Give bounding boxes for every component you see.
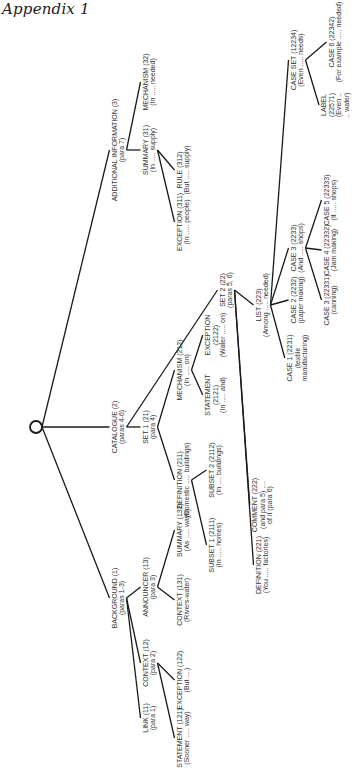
svg-text:EXCEPTION(2122)(Water ..... on: EXCEPTION(2122)(Water ..... on) (204, 313, 227, 357)
tree-labels: BACKGROUND (1)(paras 1-3)LINK (11)(para … (111, 2, 351, 768)
node-22571: LABEL(22571)(Even .... water) (320, 92, 351, 117)
svg-text:DEFINITION (211)(Domestic ....: DEFINITION (211)(Domestic ..... building… (176, 442, 192, 517)
svg-text:CASE 6 (22342)(For example ...: CASE 6 (22342)(For example ..... needed) (328, 2, 344, 83)
node-22333: CASE 5 (22333)(It ..... shops) (323, 175, 339, 226)
tree-edge (158, 530, 175, 587)
node-label-line: (In .... buildings) (215, 445, 223, 495)
node-label-line: STATEMENT (204, 374, 211, 416)
node-2121: STATEMENT(2121)(In ..... and) (204, 374, 227, 416)
svg-text:LIST (223)(Among ..... needed): LIST (223)(Among ..... needed) (255, 273, 271, 337)
node-2234: CASE SET (12234)(Even ..... needs) (290, 30, 306, 91)
node-3: ADDITIONAL INFORMATION (3)(para 7) (111, 99, 127, 202)
svg-text:RULE (312)(But ..... supply): RULE (312)(But ..... supply) (176, 145, 192, 194)
node-label-line: (You ..... factories) (262, 537, 270, 594)
svg-text:ANNOUNCER (13)(para 3): ANNOUNCER (13)(para 3) (142, 557, 158, 617)
node-13: ANNOUNCER (13)(para 3) (142, 557, 158, 617)
node-32: MECHANISM (32)(In ..... needed) (142, 53, 158, 110)
node-22331: CASE 3 (22331)(canning) (323, 275, 339, 326)
node-212: MECHANISM (212)(In ..... on) (176, 339, 192, 400)
node-2122: EXCEPTION(2122)(Water ..... on) (204, 313, 227, 357)
node-21: SET 1 (21)(para 4) (142, 410, 158, 444)
svg-text:EXCEPTION (122)(But ....): EXCEPTION (122)(But ....) (176, 651, 192, 710)
tree-edge (42, 150, 110, 427)
node-2112: SUBSET 2 (2112)(In .... buildings) (208, 442, 224, 497)
node-2231: CASE 1 (2231)(textilemanufacturing) (286, 334, 309, 381)
node-label-line: (para 2) (149, 651, 157, 676)
svg-text:COMMENT (222)(and para 5) ....: COMMENT (222)(and para 5) ....of it (par… (251, 478, 274, 532)
svg-text:SUBSET 1 (2111)(In ..... homes: SUBSET 1 (2111)(In ..... homes) (208, 518, 224, 573)
node-label-line: (In ..... needed) (149, 58, 157, 105)
node-1: BACKGROUND (1)(paras 1-3) (111, 568, 127, 629)
tree-diagram: BACKGROUND (1)(paras 1-3)LINK (11)(para … (0, 0, 360, 778)
node-31: SUMMARY (31)(In ..... supply) (142, 125, 158, 175)
node-label-line: (paper making) (297, 276, 305, 323)
svg-text:MECHANISM (32)(In ..... needed: MECHANISM (32)(In ..... needed) (142, 53, 158, 110)
svg-text:CASE 3 (22331)(canning): CASE 3 (22331)(canning) (323, 275, 339, 326)
node-label-line: (In ..... supply) (149, 128, 157, 172)
tree-edge (158, 663, 175, 738)
tree-edge (192, 370, 203, 395)
node-label-line: LABEL (320, 94, 327, 116)
node-122: EXCEPTION (122)(But ....) (176, 651, 192, 710)
tree-edge (306, 248, 322, 250)
node-121: STATEMENT (121)(Sooner ..... way) (176, 708, 192, 768)
node-label-line: (para 7) (118, 138, 126, 163)
node-11: LINK (11)(para 1) (142, 703, 158, 732)
svg-text:SUBSET 2 (2112)(In .... buildi: SUBSET 2 (2112)(In .... buildings) (208, 442, 224, 497)
node-label-line: (Rivers-water) (183, 578, 191, 622)
node-2: CATALOGUE (2)(paras 4-6) (111, 401, 127, 454)
svg-text:CONTEXT (12)(para 2): CONTEXT (12)(para 2) (142, 639, 158, 687)
node-221: DEFINITION (221)(You ..... factories) (255, 536, 271, 594)
node-22: SET 2 (22)(paras 5, 6) (219, 272, 235, 308)
svg-text:CASE SET (12234)(Even ..... ne: CASE SET (12234)(Even ..... needs) (290, 30, 306, 91)
node-label-line: (But ....) (183, 668, 191, 693)
tree-edge (192, 470, 207, 480)
tree-edge (158, 587, 175, 600)
node-22342: CASE 6 (22342)(For example ..... needed) (328, 2, 344, 83)
node-2232: CASE 2 (2232)(paper making) (290, 276, 306, 323)
node-label-line: (canning) (330, 285, 338, 314)
node-label-line: .. water) (343, 92, 351, 117)
svg-text:EXCEPTION (311)(In ..... peopl: EXCEPTION (311)(In ..... people) (176, 193, 192, 251)
node-label-line: (paras 5, 6) (226, 272, 234, 308)
tree-edge (306, 248, 322, 300)
svg-text:SET 2 (22)(paras 5, 6): SET 2 (22)(paras 5, 6) (219, 272, 235, 308)
svg-text:ADDITIONAL INFORMATION (3)(par: ADDITIONAL INFORMATION (3)(para 7) (111, 99, 127, 202)
tree-edge (127, 82, 141, 150)
node-label-line: (In ..... and) (219, 377, 227, 413)
node-label-line: manufacturing) (301, 335, 309, 382)
svg-text:CASE 3 (2233)(And ..... shops): CASE 3 (2233)(And ..... shops) (290, 223, 306, 272)
node-label-line: (para 1) (149, 706, 157, 731)
tree-edge (127, 598, 141, 718)
svg-text:CASE 4 (22332)(Jam making): CASE 4 (22332)(Jam making) (323, 225, 339, 276)
node-label-line: (paras 1-3) (118, 581, 126, 615)
svg-text:STATEMENT(2121)(In ..... and): STATEMENT(2121)(In ..... and) (204, 374, 227, 416)
svg-text:DEFINITION (221)(You ..... fac: DEFINITION (221)(You ..... factories) (255, 536, 271, 594)
svg-text:CASE 5 (22333)(It ..... shops): CASE 5 (22333)(It ..... shops) (323, 175, 339, 226)
node-label-line: (Sooner ..... way) (183, 711, 191, 764)
svg-text:CONTEXT (131)(Rivers-water): CONTEXT (131)(Rivers-water) (176, 574, 192, 626)
svg-text:LINK (11)(para 1): LINK (11)(para 1) (142, 703, 158, 732)
node-label-line: (Jam making) (330, 229, 338, 271)
node-label-line: (Among ..... needed) (262, 273, 270, 337)
node-223: LIST (223)(Among ..... needed) (255, 273, 271, 337)
node-22332: CASE 4 (22332)(Jam making) (323, 225, 339, 276)
node-label-line: (And ..... shops) (297, 223, 305, 272)
node-label-line: (In ..... homes) (215, 522, 223, 567)
node-222: COMMENT (222)(and para 5) ....of it (par… (251, 478, 274, 532)
tree-edge (235, 290, 250, 505)
tree-edge (158, 427, 175, 480)
tree-edge (306, 60, 320, 105)
tree-edge (127, 587, 141, 598)
node-label-line: (In ..... people) (183, 199, 191, 244)
tree-edge (192, 480, 207, 545)
tree-edge (306, 200, 322, 248)
node-label-line: (paras 4-6) (118, 410, 126, 444)
node-211: DEFINITION (211)(Domestic ..... building… (176, 442, 192, 517)
tree-edge (271, 300, 289, 305)
tree-edge (271, 305, 285, 358)
node-label-line: (Even ..... needs) (297, 33, 305, 86)
tree-edge (306, 42, 327, 60)
svg-text:CASE 1 (2231)(textilemanufactu: CASE 1 (2231)(textilemanufacturing) (286, 334, 309, 381)
root-node-icon (30, 421, 42, 433)
